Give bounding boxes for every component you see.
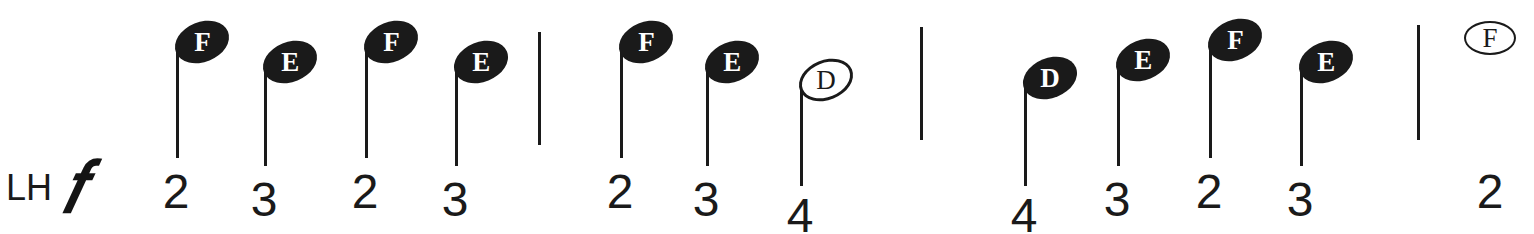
fingering-number: 4 bbox=[994, 192, 1054, 234]
notehead-letter: F bbox=[383, 29, 400, 56]
note-stem bbox=[176, 42, 179, 158]
barline-2 bbox=[920, 27, 923, 140]
fingering-number: 2 bbox=[590, 168, 650, 216]
notehead-letter: E bbox=[281, 49, 299, 76]
notehead-letter: F bbox=[638, 29, 655, 56]
notehead-letter: E bbox=[472, 49, 490, 76]
barline-1 bbox=[538, 32, 541, 145]
fingering-number: 3 bbox=[234, 176, 294, 224]
notehead-letter: F bbox=[1227, 27, 1244, 54]
fingering-number: 3 bbox=[676, 176, 736, 224]
note-stem bbox=[1209, 40, 1212, 158]
fingering-number: 3 bbox=[1087, 176, 1147, 224]
fingering-number: 4 bbox=[770, 192, 830, 234]
notehead-letter: E bbox=[1317, 49, 1335, 76]
hand-label-left-hand: LH bbox=[6, 170, 52, 206]
notehead-letter: E bbox=[723, 49, 741, 76]
note-stem bbox=[620, 42, 623, 158]
notation-sheet: LH 𝑓 F2E3F2E3F2E3D4D4E3F2E3F2 bbox=[0, 0, 1534, 234]
fingering-number: 2 bbox=[146, 168, 206, 216]
notehead-letter: F bbox=[1482, 25, 1497, 52]
note-stem bbox=[1024, 78, 1027, 186]
fingering-number: 2 bbox=[1179, 168, 1239, 216]
note-stem bbox=[1117, 60, 1120, 166]
notehead-letter: F bbox=[194, 29, 211, 56]
dynamic-forte-marking: 𝑓 bbox=[62, 152, 84, 224]
note-stem bbox=[800, 80, 803, 186]
notehead-open-F[interactable]: F bbox=[1464, 21, 1516, 55]
notehead-letter: E bbox=[1134, 47, 1152, 74]
note-stem bbox=[365, 42, 368, 158]
barline-3 bbox=[1417, 25, 1420, 140]
notehead-letter: D bbox=[1040, 65, 1060, 92]
notehead-letter: D bbox=[816, 67, 836, 94]
fingering-number: 3 bbox=[1270, 176, 1330, 224]
fingering-number: 2 bbox=[1460, 168, 1520, 216]
fingering-number: 3 bbox=[425, 176, 485, 224]
fingering-number: 2 bbox=[335, 168, 395, 216]
